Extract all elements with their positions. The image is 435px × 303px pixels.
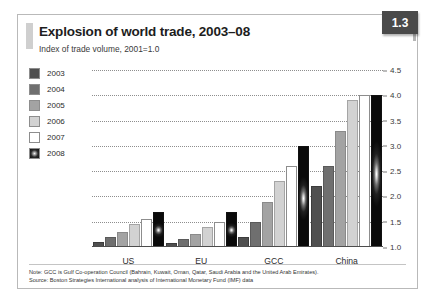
chart-legend: 2003 2004 2005 2006 2007 2008 bbox=[29, 65, 91, 161]
bar-us-2006[interactable] bbox=[129, 224, 140, 247]
y-axis-tick-label: 2.5 bbox=[383, 167, 401, 176]
bar-gcc-2006[interactable] bbox=[274, 181, 285, 247]
footnote: Note: GCC is Gulf Co-operation Council (… bbox=[29, 268, 407, 285]
y-axis-tick-label: 4.0 bbox=[383, 91, 401, 100]
bar-china-2007[interactable] bbox=[359, 95, 370, 247]
bar-china-2004[interactable] bbox=[323, 166, 334, 247]
y-axis-tick-label: 3.5 bbox=[383, 116, 401, 125]
legend-item: 2003 bbox=[29, 65, 91, 81]
legend-swatch-2007 bbox=[29, 132, 40, 143]
legend-swatch-2005 bbox=[29, 100, 40, 111]
bar-group: GCC bbox=[238, 70, 311, 247]
chart-title: Explosion of world trade, 2003–08 bbox=[39, 24, 250, 39]
y-axis-tick-label: 3.0 bbox=[383, 141, 401, 150]
bar-eu-2006[interactable] bbox=[202, 227, 213, 247]
y-axis-tick-label: 1.5 bbox=[383, 217, 401, 226]
legend-item: 2008 bbox=[29, 145, 91, 161]
bar-china-2005[interactable] bbox=[335, 131, 346, 247]
x-axis-baseline bbox=[92, 246, 383, 247]
bar-us-2007[interactable] bbox=[141, 219, 152, 247]
legend-label-2008: 2008 bbox=[47, 149, 65, 158]
bar-us-2005[interactable] bbox=[117, 232, 128, 247]
footnote-note: Note: GCC is Gulf Co-operation Council (… bbox=[29, 268, 407, 276]
footnote-source: Source: Boston Strategies International … bbox=[29, 276, 407, 284]
bar-china-2003[interactable] bbox=[311, 186, 322, 247]
legend-label-2006: 2006 bbox=[47, 117, 65, 126]
bar-china-2008[interactable] bbox=[371, 95, 382, 247]
bar-group: China bbox=[310, 70, 383, 247]
legend-label-2005: 2005 bbox=[47, 101, 65, 110]
legend-swatch-2008 bbox=[29, 148, 40, 159]
legend-item: 2005 bbox=[29, 97, 91, 113]
legend-item: 2007 bbox=[29, 129, 91, 145]
legend-item: 2004 bbox=[29, 81, 91, 97]
legend-label-2003: 2003 bbox=[47, 69, 65, 78]
legend-swatch-2003 bbox=[29, 68, 40, 79]
bar-gcc-2007[interactable] bbox=[286, 166, 297, 247]
plot-area: 1.01.52.02.53.03.54.04.5 USEUGCCChina bbox=[92, 70, 383, 247]
legend-label-2004: 2004 bbox=[47, 85, 65, 94]
y-axis-tick-label: 2.0 bbox=[383, 192, 401, 201]
bar-gcc-2008[interactable] bbox=[298, 146, 309, 247]
legend-swatch-2006 bbox=[29, 116, 40, 127]
bar-us-2008[interactable] bbox=[153, 212, 164, 247]
bar-gcc-2005[interactable] bbox=[262, 202, 273, 248]
figure-number-badge: 1.3 bbox=[382, 11, 418, 34]
y-axis-tick-label: 1.0 bbox=[383, 243, 401, 252]
chart-subtitle: Index of trade volume, 2001=1.0 bbox=[39, 44, 159, 54]
badge-tail bbox=[413, 34, 416, 41]
footnote-divider bbox=[29, 264, 406, 265]
bar-eu-2007[interactable] bbox=[214, 222, 225, 247]
y-axis-tick-label: 4.5 bbox=[383, 66, 401, 75]
legend-swatch-2004 bbox=[29, 84, 40, 95]
bar-group: EU bbox=[165, 70, 238, 247]
title-accent-bar bbox=[26, 23, 33, 49]
figure-panel: 1.3 Explosion of world trade, 2003–08 In… bbox=[17, 14, 418, 289]
bar-gcc-2004[interactable] bbox=[250, 222, 261, 247]
bar-eu-2008[interactable] bbox=[226, 212, 237, 247]
bar-china-2006[interactable] bbox=[347, 100, 358, 247]
legend-item: 2006 bbox=[29, 113, 91, 129]
legend-label-2007: 2007 bbox=[47, 133, 65, 142]
bar-group: US bbox=[92, 70, 165, 247]
